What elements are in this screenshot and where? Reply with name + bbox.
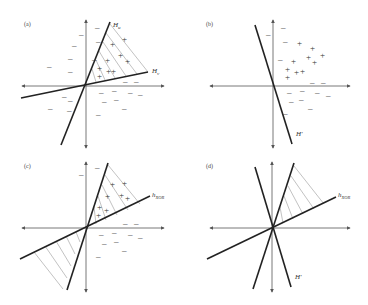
label-h-u: Hu	[112, 21, 121, 30]
svg-text:+: +	[111, 66, 116, 76]
svg-text:–: –	[288, 96, 294, 106]
svg-text:–: –	[282, 36, 288, 46]
svg-text:–: –	[137, 232, 143, 242]
svg-text:–: –	[309, 77, 315, 87]
svg-text:+: +	[105, 191, 110, 201]
panel-d: (d) hXOR H'	[206, 162, 350, 292]
shaded-region	[280, 166, 324, 223]
svg-text:–: –	[137, 89, 143, 99]
svg-text:–: –	[66, 105, 72, 115]
svg-text:+: +	[320, 50, 325, 60]
svg-text:–: –	[307, 103, 313, 113]
svg-text:–: –	[265, 29, 271, 39]
svg-text:–: –	[314, 87, 320, 97]
svg-text:–: –	[71, 40, 77, 50]
svg-text:–: –	[127, 87, 133, 97]
svg-text:+: +	[125, 193, 130, 203]
svg-text:–: –	[133, 76, 139, 86]
svg-text:–: –	[61, 91, 67, 101]
svg-text:+: +	[306, 52, 311, 62]
svg-text:–: –	[121, 103, 127, 113]
label-h-xor: hXOR	[338, 191, 350, 200]
label-h-v: Hv	[151, 67, 160, 76]
svg-text:–: –	[113, 94, 119, 104]
svg-text:–: –	[78, 29, 84, 39]
svg-text:+: +	[291, 56, 296, 66]
label-h-prime: H'	[294, 273, 302, 281]
svg-text:+: +	[300, 66, 305, 76]
svg-text:+: +	[96, 210, 101, 220]
svg-text:–: –	[95, 251, 101, 261]
svg-text:+: +	[122, 178, 127, 188]
svg-text:–: –	[67, 95, 73, 105]
svg-text:–: –	[91, 54, 97, 64]
svg-text:+: +	[294, 67, 299, 77]
negative-points: –– –– –– –– –– –– –– –– –– –– ––	[46, 22, 143, 119]
panel-a: (a) Hu Hv ++ ++ ++ ++ + –– –– ––	[21, 20, 164, 148]
svg-text:+: +	[122, 34, 127, 44]
svg-text:–: –	[298, 94, 304, 104]
svg-text:–: –	[101, 238, 107, 248]
svg-text:–: –	[94, 22, 100, 32]
svg-text:–: –	[94, 162, 100, 172]
svg-text:+: +	[297, 38, 302, 48]
svg-text:–: –	[282, 108, 288, 118]
figure: (a) Hu Hv ++ ++ ++ ++ + –– –– ––	[0, 0, 368, 305]
svg-text:–: –	[46, 61, 52, 71]
svg-text:–: –	[121, 245, 127, 255]
svg-text:+: +	[104, 205, 109, 215]
svg-text:+: +	[110, 39, 115, 49]
panel-c-label: (c)	[24, 163, 31, 170]
svg-text:+: +	[312, 57, 317, 67]
svg-text:–: –	[122, 218, 128, 228]
svg-text:+: +	[110, 179, 115, 189]
svg-text:+: +	[105, 55, 110, 65]
panel-b-label: (b)	[206, 21, 213, 28]
label-h-xor: hXOR	[152, 191, 164, 200]
panel-b: (b) H' ++ ++ ++ ++ ++ –– –– –– –– –– –– …	[206, 20, 350, 148]
svg-text:–: –	[95, 109, 101, 119]
svg-text:–: –	[280, 22, 286, 32]
hyperplane-h-xor	[20, 196, 150, 259]
positive-points: ++ ++ ++ ++ ++	[285, 38, 325, 82]
svg-text:–: –	[320, 77, 326, 87]
svg-text:–: –	[101, 96, 107, 106]
panel-d-label: (d)	[206, 163, 213, 170]
panel-a-label: (a)	[24, 21, 31, 28]
svg-text:–: –	[67, 53, 73, 63]
svg-text:+: +	[118, 50, 123, 60]
svg-text:–: –	[78, 169, 84, 179]
svg-text:–: –	[133, 218, 139, 228]
svg-text:+: +	[125, 56, 130, 66]
svg-text:–: –	[277, 54, 283, 64]
negative-points: –– –– –– –– –– ––	[78, 162, 143, 261]
svg-text:–: –	[47, 103, 53, 113]
svg-text:+: +	[97, 71, 102, 81]
label-h-prime: H'	[295, 130, 303, 138]
svg-text:–: –	[127, 229, 133, 239]
svg-text:+: +	[119, 190, 124, 200]
panel-c: (c) hXOR ++ ++ ++ ++ –– –– ––	[20, 162, 164, 292]
svg-text:+: +	[285, 72, 290, 82]
svg-text:–: –	[95, 36, 101, 46]
hyperplane-h-u	[61, 22, 110, 145]
svg-text:–: –	[325, 90, 331, 100]
svg-text:–: –	[113, 236, 119, 246]
svg-text:–: –	[122, 76, 128, 86]
svg-text:–: –	[67, 66, 73, 76]
